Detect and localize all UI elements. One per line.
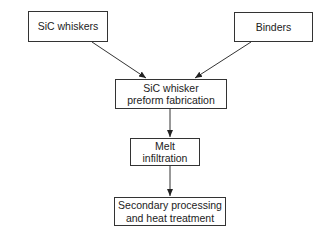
node-label-line1: Melt — [155, 140, 175, 153]
arrow-whiskers-to-preform — [92, 42, 146, 78]
node-label-line2: and heat treatment — [126, 212, 214, 225]
node-binders: Binders — [234, 12, 313, 42]
node-label-line1: Secondary processing — [118, 199, 222, 212]
node-label-line2: infiltration — [143, 152, 188, 165]
arrow-binders-to-preform — [195, 42, 251, 78]
node-label-line2: preform fabrication — [127, 94, 215, 107]
node-preform-fabrication: SiC whisker preform fabrication — [115, 79, 227, 109]
node-label: SiC whiskers — [38, 20, 99, 33]
node-secondary-processing: Secondary processing and heat treatment — [114, 197, 226, 226]
node-sic-whiskers: SiC whiskers — [28, 11, 108, 42]
node-melt-infiltration: Melt infiltration — [130, 138, 200, 166]
node-label-line1: SiC whisker — [143, 82, 198, 95]
node-label: Binders — [256, 21, 292, 34]
